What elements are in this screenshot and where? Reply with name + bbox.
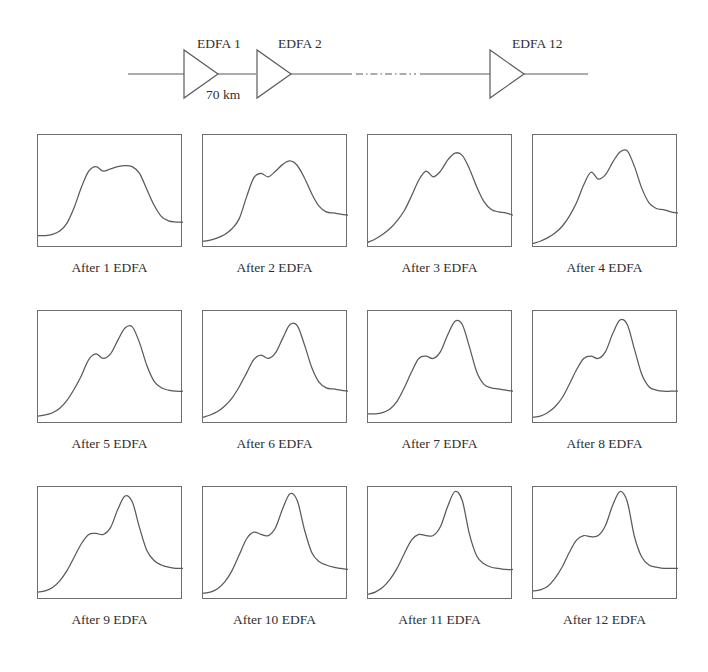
panel-caption: After 5 EDFA — [71, 436, 147, 452]
spectrum-panel-10: After 10 EDFA — [202, 486, 347, 654]
spectrum-plot-frame — [367, 134, 512, 247]
spectrum-plot-frame — [532, 310, 677, 423]
spectrum-trace — [203, 493, 348, 593]
amplifier-label-12: EDFA 12 — [512, 36, 562, 51]
spectrum-trace — [533, 150, 678, 244]
spectrum-panel-12: After 12 EDFA — [532, 486, 677, 654]
spectrum-panel-3: After 3 EDFA — [367, 134, 512, 302]
spectrum-trace — [533, 491, 678, 591]
panel-caption: After 6 EDFA — [236, 436, 312, 452]
spectrum-panel-4: After 4 EDFA — [532, 134, 677, 302]
spectra-panel-grid: After 1 EDFAAfter 2 EDFAAfter 3 EDFAAfte… — [37, 134, 677, 664]
panel-caption: After 2 EDFA — [236, 260, 312, 276]
panel-caption: After 12 EDFA — [563, 612, 646, 628]
spectrum-trace — [368, 491, 513, 594]
spectrum-trace — [38, 166, 183, 236]
spectrum-plot-frame — [367, 486, 512, 599]
spectrum-panel-5: After 5 EDFA — [37, 310, 182, 478]
spectrum-plot-frame — [532, 486, 677, 599]
panel-caption: After 1 EDFA — [71, 260, 147, 276]
spectrum-panel-6: After 6 EDFA — [202, 310, 347, 478]
panel-caption: After 11 EDFA — [398, 612, 480, 628]
amplifier-label-1: EDFA 1 — [197, 36, 241, 51]
panel-caption: After 10 EDFA — [233, 612, 316, 628]
panel-caption: After 9 EDFA — [71, 612, 147, 628]
amplifier-label-2: EDFA 2 — [278, 36, 322, 51]
spectrum-trace — [533, 319, 678, 417]
spectrum-plot-frame — [202, 134, 347, 247]
spectrum-trace — [203, 323, 348, 417]
spectrum-trace — [38, 496, 183, 592]
panel-caption: After 3 EDFA — [401, 260, 477, 276]
spectrum-trace — [203, 161, 348, 241]
spectrum-plot-frame — [367, 310, 512, 423]
spectrum-plot-frame — [37, 134, 182, 247]
panel-caption: After 7 EDFA — [401, 436, 477, 452]
spectrum-panel-7: After 7 EDFA — [367, 310, 512, 478]
spectrum-plot-frame — [37, 310, 182, 423]
spectrum-trace — [368, 153, 513, 243]
panel-caption: After 8 EDFA — [566, 436, 642, 452]
amplifier-triangle-2 — [257, 50, 291, 98]
spectrum-panel-9: After 9 EDFA — [37, 486, 182, 654]
spectrum-plot-frame — [202, 486, 347, 599]
spectrum-panel-11: After 11 EDFA — [367, 486, 512, 654]
spectrum-trace — [368, 320, 513, 414]
span-length-label: 70 km — [206, 87, 241, 102]
spectrum-panel-8: After 8 EDFA — [532, 310, 677, 478]
edfa-link-diagram: EDFA 1 EDFA 2 EDFA 12 70 km — [0, 0, 708, 120]
amplifier-triangle-12 — [490, 50, 524, 98]
panel-caption: After 4 EDFA — [566, 260, 642, 276]
spectrum-panel-2: After 2 EDFA — [202, 134, 347, 302]
spectrum-panel-1: After 1 EDFA — [37, 134, 182, 302]
spectrum-trace — [38, 326, 183, 417]
spectrum-plot-frame — [202, 310, 347, 423]
spectrum-plot-frame — [37, 486, 182, 599]
spectrum-plot-frame — [532, 134, 677, 247]
